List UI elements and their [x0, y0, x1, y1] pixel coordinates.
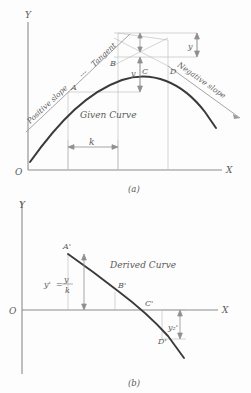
- panel-a-construction-lines: [68, 33, 197, 170]
- point-label-d: D: [169, 67, 177, 76]
- formula-denominator: k: [65, 286, 70, 295]
- panel-b-y2-dimension: [178, 310, 183, 339]
- point-label-b: B: [109, 59, 116, 68]
- formula-equals: =: [56, 280, 63, 289]
- panel-a-y-label: y: [130, 69, 136, 78]
- panel-b-y1-dimension: [82, 254, 87, 310]
- panel-a-diagram: Y X O A B C D y y k Given Curve Positive…: [0, 0, 251, 196]
- panel-b-y2-label: y₂': [167, 323, 178, 332]
- panel-a-y-axis-label: Y: [25, 10, 32, 20]
- panel-a-top-tick-dimension: [138, 33, 142, 52]
- derived-curve-label: Derived Curve: [109, 260, 176, 270]
- panel-a-y2-dimension: [195, 33, 200, 57]
- panel-b-x-axis-label: X: [221, 305, 229, 315]
- panel-a-k-label: k: [89, 137, 94, 147]
- formula-numerator: y: [63, 275, 69, 284]
- given-curve-label: Given Curve: [80, 110, 137, 120]
- point-label-d-prime: D': [157, 337, 167, 346]
- negative-slope-arrow-icon: [233, 114, 240, 119]
- positive-slope-label: Positive slope: [24, 83, 69, 126]
- point-label-b-prime: B': [117, 281, 126, 290]
- point-label-a-prime: A': [62, 242, 71, 251]
- figure-root: Y X O A B C D y y k Given Curve Positive…: [0, 0, 251, 393]
- point-label-c: C: [142, 67, 148, 76]
- panel-a-x-axis-label: X: [225, 165, 233, 175]
- panel-b-diagram: Y X O A' B' C' D' y' = y k y₂' Derived C…: [0, 196, 251, 393]
- panel-a-y-drop-label: y: [187, 42, 193, 51]
- formula-lhs: y': [43, 280, 51, 289]
- panel-b-caption: (b): [128, 378, 140, 388]
- dash-connector-label: ---: [77, 67, 89, 79]
- panel-b-y-axis-label: Y: [19, 200, 26, 210]
- panel-a-origin-label: O: [15, 167, 23, 177]
- point-label-a: A: [70, 83, 77, 92]
- panel-a-caption: (a): [128, 184, 140, 194]
- panel-b-origin-label: O: [9, 306, 17, 316]
- negative-slope-label: Negative slope: [175, 60, 228, 101]
- point-label-c-prime: C': [145, 299, 153, 308]
